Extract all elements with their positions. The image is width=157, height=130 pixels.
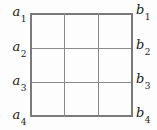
label-b1-base: b	[136, 2, 144, 17]
label-a1-subscript: 1	[21, 14, 27, 24]
grid-diagram-figure: a1 a2 a3 a4 b1 b2 b3 b4	[0, 0, 157, 130]
label-a3-subscript: 3	[21, 83, 27, 93]
label-a2: a2	[0, 40, 26, 57]
label-b3-base: b	[136, 71, 144, 86]
label-a2-base: a	[13, 39, 21, 54]
grid-container	[30, 13, 133, 117]
label-a2-subscript: 2	[21, 49, 27, 59]
label-b2-subscript: 2	[145, 47, 151, 57]
label-b4-subscript: 4	[145, 115, 151, 125]
grid-line-horizontal-2	[30, 82, 133, 83]
label-a3-base: a	[13, 73, 21, 88]
label-b1: b1	[136, 3, 150, 20]
grid-line-vertical-right	[131, 13, 133, 117]
label-b2-base: b	[136, 37, 144, 52]
label-b4-base: b	[136, 105, 144, 120]
label-b3: b3	[136, 72, 150, 89]
label-a4-base: a	[13, 107, 21, 122]
grid-line-horizontal-bottom	[30, 115, 133, 117]
label-b2: b2	[136, 38, 150, 55]
label-a1: a1	[0, 5, 26, 22]
label-a4-subscript: 4	[21, 117, 27, 127]
label-b1-subscript: 1	[145, 12, 151, 22]
grid-line-vertical-1	[64, 13, 65, 117]
grid-line-vertical-left	[30, 13, 32, 117]
label-b4: b4	[136, 106, 150, 123]
label-a3: a3	[0, 74, 26, 91]
label-a4: a4	[0, 108, 26, 125]
grid-line-horizontal-1	[30, 48, 133, 49]
grid-line-vertical-2	[98, 13, 99, 117]
label-b3-subscript: 3	[145, 81, 151, 91]
label-a1-base: a	[13, 4, 21, 19]
grid-line-horizontal-top	[30, 13, 133, 15]
